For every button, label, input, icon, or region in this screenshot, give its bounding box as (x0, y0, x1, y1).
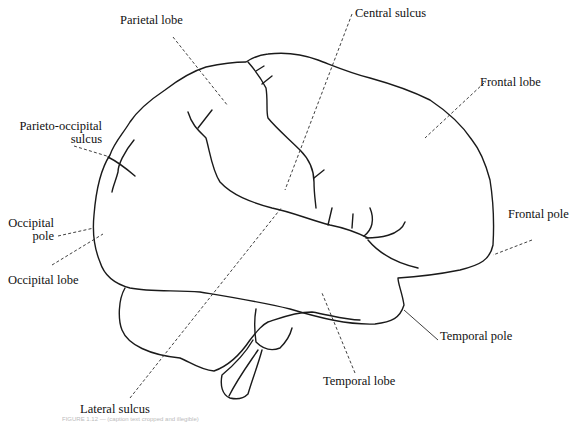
leader-temporal-lobe (322, 293, 355, 373)
label-lateral-sulcus: Lateral sulcus (80, 403, 150, 416)
label-frontal-pole: Frontal pole (508, 208, 569, 221)
parietal-fold (188, 112, 368, 238)
postcentral-contour (248, 62, 316, 208)
leader-parieto-occipital-sulcus (74, 146, 110, 157)
brain-diagram: Parietal lobe Central sulcus Frontal lob… (0, 0, 579, 423)
sulcus-tick (328, 208, 332, 225)
sulcus-tick (352, 214, 353, 228)
label-temporal-lobe: Temporal lobe (323, 375, 395, 388)
leader-occipital-pole (58, 228, 94, 236)
label-central-sulcus: Central sulcus (355, 7, 426, 20)
label-frontal-lobe: Frontal lobe (480, 76, 541, 89)
cerebrum-outline (93, 53, 493, 324)
label-temporal-pole: Temporal pole (440, 330, 512, 343)
sulcus-tick (256, 66, 264, 71)
sulcus-tick (198, 110, 212, 128)
cerebellum-outline (255, 309, 292, 350)
leader-central-sulcus (285, 14, 352, 190)
leader-temporal-pole (404, 310, 438, 340)
label-occipital-lobe: Occipital lobe (8, 274, 78, 287)
label-occipital-pole: Occipital pole (2, 217, 54, 243)
figure-caption: FIGURE 1.12 — (caption text cropped and … (62, 416, 579, 423)
sulcus-tick (368, 240, 418, 268)
sulcus-tick (262, 76, 272, 84)
brainstem-inner-line (229, 350, 258, 396)
label-parietal-lobe: Parietal lobe (120, 14, 183, 27)
leader-parietal-lobe (173, 37, 228, 106)
sulcus-tick (364, 208, 372, 236)
label-occipital-pole-line2: pole (2, 230, 54, 243)
leader-frontal-lobe (425, 83, 484, 138)
label-parieto-occipital-sulcus: Parieto-occipital sulcus (10, 120, 102, 146)
label-parieto-occipital-line2: sulcus (10, 133, 102, 146)
brainstem-outline (221, 340, 262, 399)
leader-frontal-pole (493, 240, 532, 255)
sulcus-tick (314, 170, 324, 178)
brain-illustration (0, 0, 579, 423)
